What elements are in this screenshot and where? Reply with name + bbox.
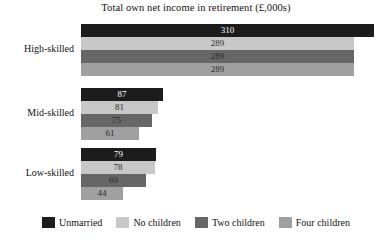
bar-value-label: 75 bbox=[81, 114, 152, 127]
bar-group: High-skilled310289289289 bbox=[0, 24, 392, 76]
legend-swatch-icon bbox=[195, 217, 208, 228]
bar-value-label: 78 bbox=[81, 161, 155, 174]
legend-swatch-icon bbox=[279, 217, 292, 228]
legend-item-four-children[interactable]: Four children bbox=[279, 217, 350, 228]
bar-group: Low-skilled79786944 bbox=[0, 148, 392, 200]
chart-legend: UnmarriedNo childrenTwo childrenFour chi… bbox=[0, 212, 392, 232]
bar-value-label: 289 bbox=[81, 50, 354, 63]
bar-value-label: 289 bbox=[81, 63, 354, 76]
legend-label: Unmarried bbox=[59, 217, 102, 228]
bar-value-label: 310 bbox=[81, 24, 374, 37]
legend-item-two-children[interactable]: Two children bbox=[195, 217, 265, 228]
chart-container: Total own net income in retirement (£,00… bbox=[0, 0, 392, 245]
bar-value-label: 87 bbox=[81, 88, 163, 101]
bar-group: Mid-skilled87817561 bbox=[0, 88, 392, 140]
chart-title: Total own net income in retirement (£,00… bbox=[0, 2, 392, 13]
legend-label: No children bbox=[133, 217, 181, 228]
category-label-high-skilled: High-skilled bbox=[0, 43, 74, 54]
legend-swatch-icon bbox=[116, 217, 129, 228]
category-label-low-skilled: Low-skilled bbox=[0, 167, 74, 178]
legend-label: Four children bbox=[296, 217, 350, 228]
bar-value-label: 61 bbox=[81, 127, 139, 140]
bar-value-label: 44 bbox=[81, 187, 123, 200]
bar-value-label: 79 bbox=[81, 148, 156, 161]
legend-label: Two children bbox=[212, 217, 265, 228]
category-label-mid-skilled: Mid-skilled bbox=[0, 107, 74, 118]
legend-item-no-children[interactable]: No children bbox=[116, 217, 181, 228]
plot-area: High-skilled310289289289Mid-skilled87817… bbox=[0, 20, 392, 205]
bar-value-label: 69 bbox=[81, 174, 146, 187]
bar-value-label: 81 bbox=[81, 101, 158, 114]
legend-swatch-icon bbox=[42, 217, 55, 228]
bar-value-label: 289 bbox=[81, 37, 354, 50]
legend-item-unmarried[interactable]: Unmarried bbox=[42, 217, 102, 228]
